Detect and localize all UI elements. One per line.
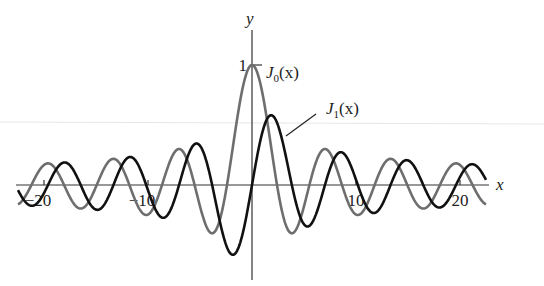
bessel-chart: x y −20−101020 1 J0(x) J1(x) — [0, 0, 544, 286]
x-axis-label: x — [495, 175, 504, 194]
label-j1: J1(x) — [326, 99, 359, 120]
x-tick-label: 20 — [452, 191, 469, 210]
label-j1-leader-line — [286, 114, 316, 136]
scan-artifact-line — [0, 122, 544, 124]
y-axis-label: y — [244, 9, 254, 28]
label-j0: J0(x) — [266, 63, 299, 84]
